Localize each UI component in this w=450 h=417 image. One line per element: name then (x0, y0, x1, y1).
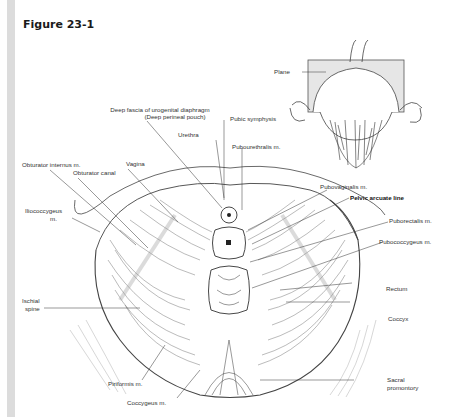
coccyx-sacrum (205, 340, 253, 395)
label-pubourethralis: Pubourethralis m. (232, 143, 281, 150)
label-iliococcygeus: Iliococcygeus (25, 207, 62, 214)
label-deep-perineal-pouch: (Deep perineal pouch) (110, 113, 240, 120)
label-plane: Plane (274, 68, 290, 75)
label-urethra: Urethra (178, 131, 199, 138)
label-promontory: promontory (387, 384, 418, 391)
label-ischial: Ischial (22, 297, 40, 304)
urethra-shape (221, 207, 237, 223)
label-rectum: Rectum (386, 285, 407, 292)
label-deep-fascia: Deep fascia of urogenital diaphragm (90, 106, 230, 113)
label-coccygeus: Coccygeus m. (127, 399, 166, 406)
label-obturator-internus: Obturator internus m. (22, 161, 80, 168)
inset-figure (290, 40, 422, 168)
label-obturator-canal: Obturator canal (73, 169, 116, 176)
label-piriformis: Piriformis m. (108, 380, 142, 387)
label-pubic-symphysis: Pubic symphysis (230, 115, 276, 122)
label-pubovaginalis: Pubovaginalis m. (320, 183, 367, 190)
label-coccyx: Coccyx (388, 315, 408, 322)
label-pubococcygeus: Pubococcygeus m. (379, 238, 431, 245)
rectum-shape (209, 266, 250, 314)
vagina-shape (213, 227, 246, 259)
pelvic-floor-illustration (0, 0, 450, 417)
label-spine: spine (25, 305, 40, 312)
label-puborectalis: Puborectalis m. (389, 217, 432, 224)
label-pelvic-arcuate-line: Pelvic arcuate line (350, 194, 404, 201)
label-sacral: Sacral (387, 376, 405, 383)
label-vagina: Vagina (126, 160, 145, 167)
label-iliococcygeus-m: m. (50, 215, 57, 222)
